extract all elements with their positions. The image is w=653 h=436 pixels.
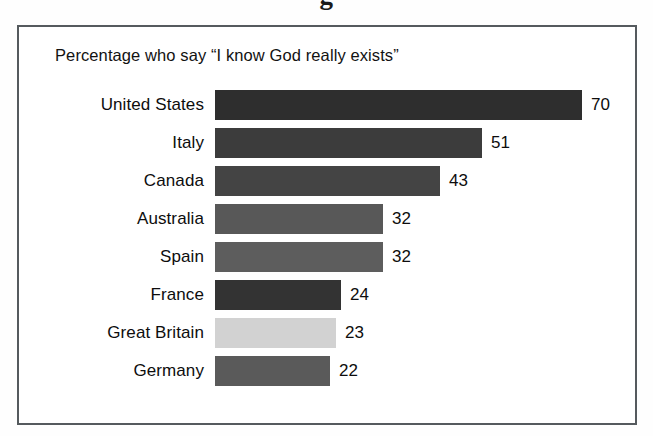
bar-track: 32 — [215, 204, 631, 234]
bar-row: Spain32 — [19, 242, 635, 280]
bar-track: 43 — [215, 166, 631, 196]
bar-value-label: 51 — [491, 128, 510, 158]
bar — [215, 166, 440, 196]
bar — [215, 318, 336, 348]
bar — [215, 204, 383, 234]
bar-track: 51 — [215, 128, 631, 158]
bar-category-label: United States — [101, 90, 204, 120]
bar-value-label: 43 — [449, 166, 468, 196]
bar-track: 23 — [215, 318, 631, 348]
chart-caption: Percentage who say “I know God really ex… — [55, 46, 399, 65]
bar-track: 24 — [215, 280, 631, 310]
bar-category-label: Germany — [133, 356, 204, 386]
bar-value-label: 70 — [591, 90, 610, 120]
bar-category-label: Spain — [160, 242, 204, 272]
bar — [215, 356, 330, 386]
bar-row: Australia32 — [19, 204, 635, 242]
cut-off-title-fragment: g — [0, 0, 653, 11]
bar-value-label: 32 — [392, 204, 411, 234]
bar-row: France24 — [19, 280, 635, 318]
bar-value-label: 22 — [339, 356, 358, 386]
bar-track: 70 — [215, 90, 631, 120]
bar-row: Italy51 — [19, 128, 635, 166]
bar-row: Germany22 — [19, 356, 635, 394]
bar — [215, 90, 582, 120]
bar-category-label: Italy — [172, 128, 204, 158]
chart-page: g Percentage who say “I know God really … — [0, 0, 653, 436]
bar-category-label: Great Britain — [107, 318, 204, 348]
bar-row: Canada43 — [19, 166, 635, 204]
bar — [215, 128, 482, 158]
bar-category-label: Australia — [137, 204, 204, 234]
bar — [215, 280, 341, 310]
bar-category-label: Canada — [144, 166, 204, 196]
bar-value-label: 24 — [350, 280, 369, 310]
bar-chart-plot-area: United States70Italy51Canada43Australia3… — [19, 90, 635, 394]
chart-frame: Percentage who say “I know God really ex… — [17, 25, 637, 425]
bar-track: 22 — [215, 356, 631, 386]
bar-value-label: 32 — [392, 242, 411, 272]
bar-track: 32 — [215, 242, 631, 272]
bar-row: Great Britain23 — [19, 318, 635, 356]
bar-value-label: 23 — [345, 318, 364, 348]
bar-row: United States70 — [19, 90, 635, 128]
bar — [215, 242, 383, 272]
bar-category-label: France — [150, 280, 204, 310]
